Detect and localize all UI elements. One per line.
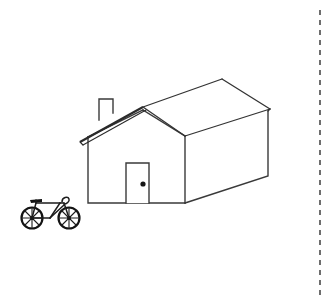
drawing-canvas (0, 0, 335, 306)
line-drawing-svg (0, 0, 335, 306)
front-door[interactable] (126, 163, 149, 203)
door-panel-fill (126, 163, 149, 203)
doorknob-icon[interactable] (140, 181, 145, 186)
